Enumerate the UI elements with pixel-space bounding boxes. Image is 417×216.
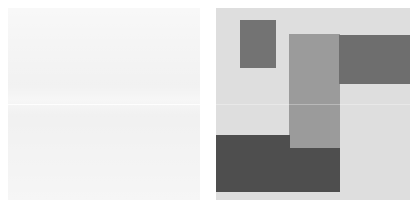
canvas-stage bbox=[0, 0, 417, 216]
lower-left-large-rect[interactable] bbox=[216, 135, 290, 192]
right-panel[interactable] bbox=[216, 8, 410, 200]
left-panel[interactable] bbox=[8, 8, 200, 200]
upper-right-band-rect[interactable] bbox=[339, 35, 410, 84]
left-panel-seam bbox=[8, 104, 200, 105]
center-vertical-rect[interactable] bbox=[289, 34, 340, 149]
small-upper-left-rect[interactable] bbox=[240, 20, 276, 68]
lower-right-rect[interactable] bbox=[290, 148, 340, 192]
